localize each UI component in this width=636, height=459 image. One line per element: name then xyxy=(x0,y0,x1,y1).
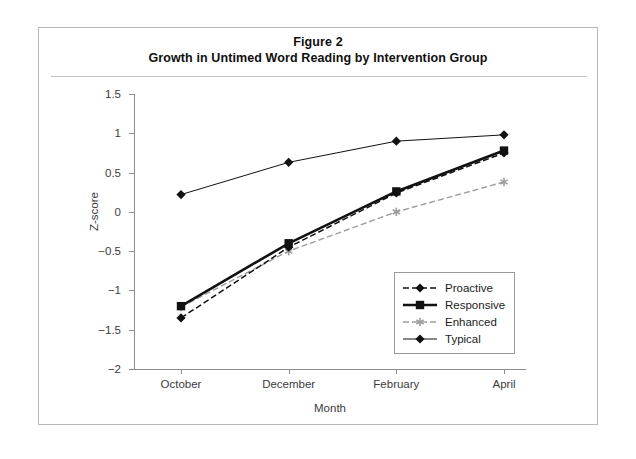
figure-frame: Figure 2 Growth in Untimed Word Reading … xyxy=(38,27,598,425)
x-tick xyxy=(504,369,505,374)
legend-item-enhanced: Enhanced xyxy=(402,313,505,330)
legend-label: Enhanced xyxy=(445,316,497,328)
legend-item-typical: Typical xyxy=(402,330,505,347)
data-point-responsive xyxy=(284,239,292,247)
data-point-typical xyxy=(284,158,293,167)
data-point-typical xyxy=(392,137,401,146)
legend-marker-asterisk-icon xyxy=(402,315,438,329)
y-tick-label: −1.5 xyxy=(98,324,121,336)
y-axis-title: Z-score xyxy=(88,192,100,231)
y-tick-label: 1.5 xyxy=(105,88,121,100)
x-tick-label: February xyxy=(373,378,419,390)
x-tick xyxy=(181,369,182,374)
x-tick xyxy=(396,369,397,374)
y-tick-label: −2 xyxy=(108,363,121,375)
y-tick: −2 xyxy=(129,369,134,370)
x-axis-title: Month xyxy=(134,402,526,414)
legend-label: Responsive xyxy=(445,299,505,311)
data-point-proactive xyxy=(176,313,185,322)
x-axis-line xyxy=(134,369,526,370)
y-tick-label: 0 xyxy=(115,206,121,218)
legend-label: Proactive xyxy=(445,282,493,294)
y-tick-label: 1 xyxy=(115,127,121,139)
legend-marker-diamond-icon xyxy=(402,332,438,346)
legend-marker-square-icon xyxy=(402,298,438,312)
y-tick-label: −1 xyxy=(108,284,121,296)
x-tick xyxy=(289,369,290,374)
legend-item-responsive: Responsive xyxy=(402,296,505,313)
y-tick-label: 0.5 xyxy=(105,167,121,179)
x-tick-label: April xyxy=(492,378,515,390)
x-tick-label: December xyxy=(262,378,315,390)
data-point-typical xyxy=(176,190,185,199)
figure-title: Figure 2 Growth in Untimed Word Reading … xyxy=(39,34,597,66)
data-point-responsive xyxy=(177,302,185,310)
title-divider xyxy=(51,76,587,77)
legend-item-proactive: Proactive xyxy=(402,279,505,296)
y-tick-label: −0.5 xyxy=(98,245,121,257)
legend-label: Typical xyxy=(445,333,481,345)
series-line-typical xyxy=(181,135,504,195)
data-point-typical xyxy=(499,130,508,139)
figure-title-line-1: Figure 2 xyxy=(39,34,597,50)
legend-marker-diamond-icon xyxy=(402,281,438,295)
data-point-responsive xyxy=(392,187,400,195)
figure-title-line-2: Growth in Untimed Word Reading by Interv… xyxy=(39,50,597,66)
chart-legend: ProactiveResponsiveEnhancedTypical xyxy=(394,272,515,354)
x-tick-label: October xyxy=(161,378,202,390)
data-point-responsive xyxy=(500,146,508,154)
